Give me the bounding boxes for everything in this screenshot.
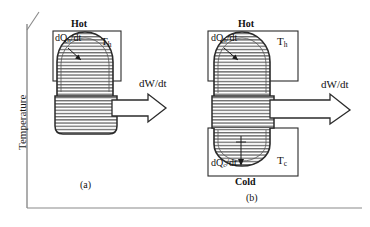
panel-b-caption: (b) [246,193,258,203]
panel-b-heat-out-label: dQc/dt [211,158,237,169]
panel-a-work-label: dW/dt [139,78,167,89]
panel-a-work-arrow [112,94,166,122]
panel-b-work-label: dW/dt [321,79,349,90]
panel-b-hot-temperature-label: Th [277,36,287,48]
y-axis-label: Temperature [16,95,28,150]
panel-a-hot-reservoir-label: Hot [71,19,87,29]
panel-b-cold-reservoir-label: Cold [235,177,256,187]
panel-b-heat-in-label: dQh/dt [211,33,237,44]
panel-a-engine-body [55,96,117,134]
panel-b-heat-in-suffix: /dt [227,32,238,43]
panel-b-temp-hot-subscript: h [284,40,288,49]
panel-b-temp-cold-subscript: c [284,159,287,168]
panel-b-heat-out-suffix: /dt [226,157,237,168]
panel-a-hot-temperature-label: Th [101,36,111,48]
thermodynamic-cycle-figure: Temperature Hot dQh/dt Th dW/dt (a) Hot … [0,0,370,227]
panel-b-engine-body [212,96,274,128]
panel-a-caption: (a) [80,180,91,190]
panel-a-heat-in-symbol: dQ [55,32,67,43]
panel-b-work-arrow [270,94,350,124]
panel-b-temp-cold-symbol: T [277,154,284,166]
panel-b-cold-temperature-label: Tc [277,155,287,167]
panel-b-temp-hot-symbol: T [277,35,284,47]
panel-a-heat-in-label: dQh/dt [55,33,81,44]
panel-a-temp-hot-symbol: T [101,35,108,47]
panel-b-heat-in-symbol: dQ [211,32,223,43]
panel-b-heat-out-symbol: dQ [211,157,223,168]
panel-a-heat-in-suffix: /dt [71,32,82,43]
panel-a-temp-hot-subscript: h [108,40,112,49]
panel-b-hot-reservoir-label: Hot [238,19,254,29]
